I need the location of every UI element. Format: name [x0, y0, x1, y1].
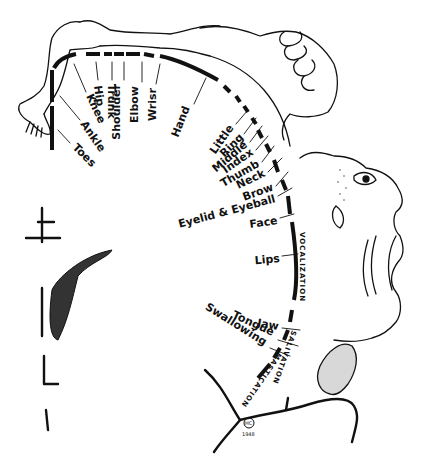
label-wrist: Wrisr: [146, 87, 159, 121]
homunculus-diagram: Toes Ankle Knee Hip Trunk Shoulder Elbow…: [0, 0, 431, 471]
signature-year: 1948: [242, 431, 255, 437]
head-stipple: [337, 169, 347, 201]
label-elbow: Elbow: [128, 86, 141, 123]
label-hand: Hand: [169, 104, 193, 139]
wedge-shape: [50, 250, 112, 340]
signature-monogram: HC: [245, 420, 253, 426]
label-face: Face: [249, 214, 279, 231]
signature: HC 1948: [242, 418, 255, 437]
label-vocalization: VOCALIZATION: [298, 232, 306, 302]
label-lips: Lips: [254, 252, 281, 267]
label-shoulder: Shoulder: [110, 83, 123, 139]
body-part-labels: Toes Ankle Knee Hip Trunk Shoulder Elbow…: [70, 83, 281, 348]
tongue-shape: [318, 344, 357, 394]
sulcus-lines: [26, 208, 357, 452]
